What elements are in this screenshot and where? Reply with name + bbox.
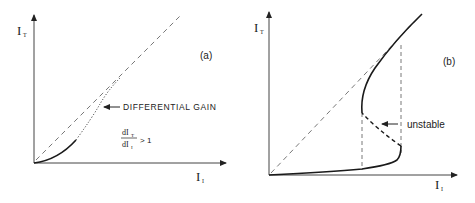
diagram-canvas: (a) I T I I DIFFERENTIAL GAIN dI T dI I … [0,0,475,203]
panel-tag: (b) [443,56,455,67]
reference-diagonal [36,16,180,160]
svg-text:I: I [131,145,133,150]
upper-stable-branch [362,14,422,113]
unstable-branch [362,113,401,146]
y-axis-sub: T [23,32,27,38]
y-axis-label: I [254,20,258,35]
annotation-label: unstable [407,119,445,130]
panel-a: (a) I T I I DIFFERENTIAL GAIN dI T dI I … [17,15,226,184]
svg-text:T: T [131,133,134,138]
x-axis-sub: I [202,178,204,184]
y-axis-sub: T [260,29,264,35]
annotation-label: DIFFERENTIAL GAIN [123,102,216,112]
transfer-curve-dotted [76,78,120,140]
panel-tag: (a) [200,50,212,61]
gain-formula: dI T dI I > 1 [121,128,152,150]
y-axis-label: I [17,23,21,38]
x-axis-label: I [435,177,439,192]
svg-text:> 1: > 1 [140,136,152,145]
lower-stable-branch [269,146,401,175]
x-axis-label: I [196,169,200,184]
transfer-curve-solid [34,140,76,163]
svg-text:dI: dI [122,140,129,149]
panel-b: (b) I T I I unstable [254,12,457,192]
svg-text:dI: dI [122,128,129,137]
x-axis-sub: I [441,186,443,192]
